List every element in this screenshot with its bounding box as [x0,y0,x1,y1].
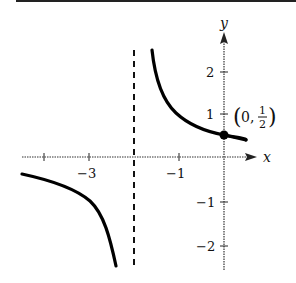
y-intercept-point [220,131,229,140]
point-fraction-den: 2 [259,118,266,131]
y-tick-label-2: 2 [206,65,214,80]
x-axis-label: x [263,149,271,165]
curve-left-branch [22,174,116,266]
paren-close: ) [268,104,277,129]
x-ticks [44,153,179,161]
y-tick-label-neg1: −1 [196,195,215,210]
x-tick-label-neg1: −1 [166,166,185,181]
y-tick-label-1: 1 [206,107,214,122]
point-x: 0, [241,109,254,125]
point-label: ( 0, 1 2 ) [233,104,277,131]
x-axis-arrow-icon [245,153,257,161]
y-axis-label: y [219,15,229,31]
x-tick-label-neg3: −3 [77,166,96,181]
function-graph: x y −3 −1 2 1 −1 −2 ( 0, 1 2 ) [0,0,296,283]
y-tick-label-neg2: −2 [196,239,215,254]
point-fraction-num: 1 [259,104,266,117]
